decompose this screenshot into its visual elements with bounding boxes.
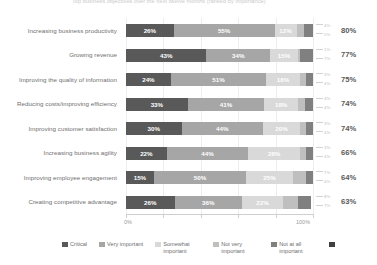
bar-segment[interactable]: 22% [126, 147, 167, 160]
bar-segment[interactable]: 50% [154, 171, 247, 184]
net-top2-value: 66% [341, 141, 377, 166]
page-title: Top business objectives over the next tw… [72, 0, 372, 4]
callout-leader-line [316, 107, 323, 108]
stacked-bar[interactable]: 15%50%25% [126, 171, 313, 184]
bar-segment[interactable] [306, 122, 313, 135]
net-top2-value: 63% [341, 190, 377, 215]
legend-item[interactable]: (NET) Top 2 [329, 241, 337, 247]
legend-item[interactable]: Somewhat important [155, 241, 201, 255]
bar-segment[interactable] [306, 147, 313, 160]
callout-leader-line [316, 24, 323, 25]
bar-segment[interactable]: 15% [270, 49, 298, 62]
stacked-bar[interactable]: 22%44%28% [126, 147, 313, 160]
net-top2-value: 64% [341, 165, 377, 190]
stacked-bar[interactable]: 26%55%12% [126, 24, 313, 37]
net-top2-value: 80% [341, 18, 377, 43]
bar-row-label: Improving the quality of information [0, 67, 121, 92]
segment-callouts: 8%7% [315, 190, 343, 215]
net-top2-value: 74% [341, 92, 377, 117]
bar-segment[interactable]: 28% [248, 147, 300, 160]
bar-segment[interactable]: 34% [206, 49, 270, 62]
x-axis: 0% 100% [126, 214, 313, 215]
bar-segment[interactable] [306, 171, 313, 184]
bar-row-label: Increasing business agility [0, 141, 121, 166]
bar-segment[interactable]: 43% [126, 49, 206, 62]
bar-row-label: Creating competitive advantage [0, 190, 121, 215]
legend-swatch [99, 242, 105, 248]
bar-segment[interactable]: 12% [275, 24, 297, 37]
callout-value: 4% [324, 105, 330, 110]
bar-segment[interactable] [293, 171, 306, 184]
x-axis-label-start: 0% [124, 219, 132, 225]
bar-row-label: Improving customer satisfaction [0, 116, 121, 141]
bar-row-label: Improving employee engagement [0, 165, 121, 190]
bar-row: Improving customer satisfaction30%44%20%… [0, 116, 377, 141]
legend-label: Not very important [221, 241, 259, 255]
stacked-bar[interactable]: 33%41%18% [126, 98, 313, 111]
callout-leader-line [316, 196, 323, 197]
stacked-bar[interactable]: 30%44%20% [126, 122, 313, 135]
net-top2-value: 75% [341, 67, 377, 92]
bar-segment[interactable]: 44% [182, 122, 263, 135]
bar-segment[interactable]: 18% [264, 98, 298, 111]
legend-swatch [62, 242, 68, 248]
stacked-bar[interactable]: 26%36%22% [126, 196, 313, 209]
bar-segment[interactable]: 30% [126, 122, 182, 135]
bar-segment[interactable] [306, 73, 313, 86]
bar-segment[interactable]: 15% [126, 171, 154, 184]
bar-segment[interactable]: 44% [167, 147, 248, 160]
callout-value: 7% [324, 170, 330, 175]
bar-rows: Increasing business productivity26%55%12… [0, 18, 377, 214]
bar-segment[interactable]: 26% [126, 196, 175, 209]
bar-segment[interactable]: 24% [126, 73, 171, 86]
callout-value: 3% [324, 72, 330, 77]
bar-segment[interactable]: 55% [174, 24, 275, 37]
bar-segment[interactable]: 20% [263, 122, 300, 135]
bar-row-label: Reducing costs/improving efficiency [0, 92, 121, 117]
bar-segment[interactable] [298, 98, 305, 111]
callout-leader-line [316, 131, 323, 132]
bar-row: Growing revenue43%34%15%1%7%77% [0, 43, 377, 68]
callout-leader-line [316, 171, 323, 172]
bar-segment[interactable]: 26% [126, 24, 174, 37]
callout-value: 5% [324, 32, 330, 37]
net-top2-value: 77% [341, 43, 377, 68]
net-top2-value: 74% [341, 116, 377, 141]
callout-value: 4% [324, 23, 330, 28]
legend-label: Somewhat important [163, 241, 201, 255]
bar-segment[interactable] [304, 24, 313, 37]
segment-callouts: 3%4% [315, 67, 343, 92]
bar-segment[interactable]: 18% [266, 73, 300, 86]
bar-segment[interactable]: 36% [175, 196, 242, 209]
bar-segment[interactable] [297, 24, 304, 37]
legend-item[interactable]: Critical [62, 241, 87, 248]
bar-segment[interactable] [305, 98, 312, 111]
segment-callouts: 3%4% [315, 116, 343, 141]
bar-segment[interactable] [298, 196, 311, 209]
bar-segment[interactable]: 41% [188, 98, 265, 111]
segment-callouts: 7%4% [315, 165, 343, 190]
stacked-bar[interactable]: 43%34%15% [126, 49, 313, 62]
bar-segment[interactable]: 22% [242, 196, 283, 209]
callout-leader-line [316, 205, 323, 206]
bar-segment[interactable]: 51% [171, 73, 266, 86]
bar-segment[interactable] [300, 49, 313, 62]
legend-item[interactable]: Not at all important [271, 241, 317, 255]
bar-row: Increasing business productivity26%55%12… [0, 18, 377, 43]
legend-swatch [213, 242, 219, 248]
stacked-bar[interactable]: 24%51%18% [126, 73, 313, 86]
bar-segment[interactable]: 33% [126, 98, 188, 111]
x-axis-tick [163, 214, 164, 218]
callout-value: 4% [324, 81, 330, 86]
legend-item[interactable]: Very important [99, 241, 143, 248]
bar-segment[interactable]: 25% [246, 171, 292, 184]
x-axis-tick [276, 214, 277, 218]
x-axis-tick [201, 214, 202, 218]
legend-item[interactable]: Not very important [213, 241, 259, 255]
callout-value: 7% [324, 203, 330, 208]
bar-row-label: Increasing business productivity [0, 18, 121, 43]
legend-swatch [155, 242, 161, 248]
bar-row: Improving the quality of information24%5… [0, 67, 377, 92]
bar-row: Creating competitive advantage26%36%22%8… [0, 190, 377, 215]
bar-segment[interactable] [283, 196, 298, 209]
